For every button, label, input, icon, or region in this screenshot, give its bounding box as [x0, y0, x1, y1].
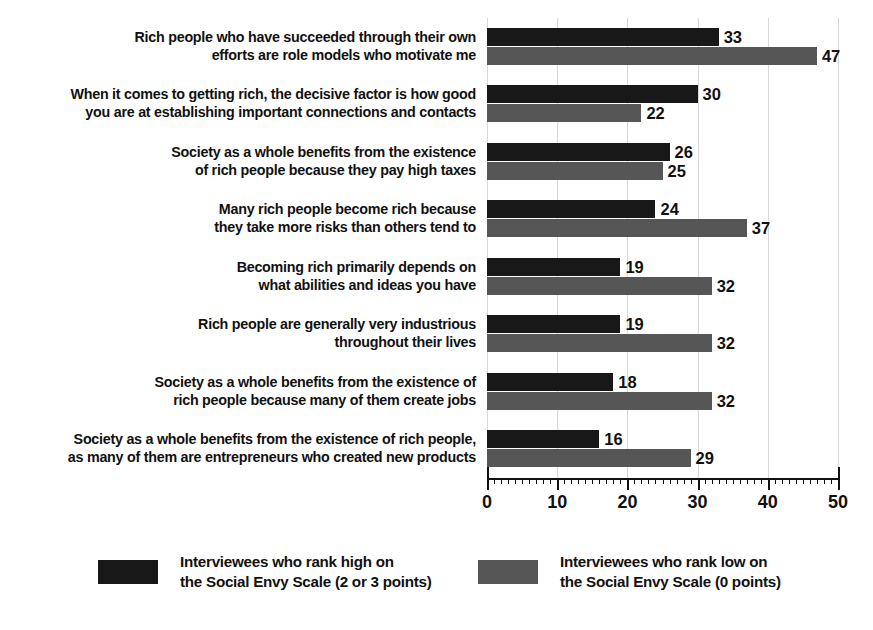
- chart-row: When it comes to getting rich, the decis…: [0, 76, 873, 134]
- x-tick-minor: [613, 478, 614, 484]
- bar-low-envy: [487, 392, 712, 410]
- x-tick-minor: [733, 478, 734, 484]
- bar-line: 16: [487, 430, 873, 448]
- bar-line: 18: [487, 373, 873, 391]
- chart-row: Society as a whole benefits from the exi…: [0, 421, 873, 479]
- x-tick-major: [838, 478, 840, 490]
- x-tick-minor: [529, 478, 530, 484]
- bar-line: 37: [487, 219, 873, 237]
- x-tick-minor: [691, 478, 692, 484]
- bar-group: 1832: [487, 372, 873, 412]
- bar-group: 1629: [487, 429, 873, 469]
- bar-value-label: 33: [719, 27, 742, 46]
- x-tick-minor: [740, 478, 741, 484]
- bar-group: 1932: [487, 314, 873, 354]
- x-axis-end-cap: [487, 467, 489, 478]
- x-tick-label: 20: [617, 492, 637, 513]
- bar-line: 47: [487, 47, 873, 65]
- x-axis: 01020304050: [487, 478, 838, 524]
- bar-low-envy: [487, 449, 691, 467]
- category-label: When it comes to getting rich, the decis…: [6, 86, 476, 122]
- x-tick-label: 40: [758, 492, 778, 513]
- bar-line: 30: [487, 85, 873, 103]
- bar-low-envy: [487, 47, 817, 65]
- bar-value-label: 19: [620, 257, 643, 276]
- bar-line: 33: [487, 28, 873, 46]
- x-tick-minor: [508, 478, 509, 484]
- bar-low-envy: [487, 162, 663, 180]
- x-tick-minor: [515, 478, 516, 484]
- bar-value-label: 22: [641, 104, 664, 123]
- legend-label-low-envy: Interviewees who rank low on the Social …: [560, 552, 781, 592]
- bar-value-label: 29: [691, 449, 714, 468]
- bar-chart: Rich people who have succeeded through t…: [0, 0, 873, 630]
- x-tick-label: 50: [828, 492, 848, 513]
- bar-value-label: 18: [613, 372, 636, 391]
- legend-entry-high-envy: Interviewees who rank high on the Social…: [98, 552, 432, 592]
- category-label: Society as a whole benefits from the exi…: [6, 144, 476, 180]
- bar-line: 32: [487, 392, 873, 410]
- x-tick-minor: [684, 478, 685, 484]
- x-tick-minor: [585, 478, 586, 484]
- bar-high-envy: [487, 315, 620, 333]
- bar-line: 32: [487, 277, 873, 295]
- x-tick-minor: [712, 478, 713, 484]
- bar-line: 19: [487, 258, 873, 276]
- x-tick-minor: [789, 478, 790, 484]
- bar-low-envy: [487, 219, 747, 237]
- legend-swatch-high-envy: [98, 560, 158, 584]
- bar-line: 22: [487, 104, 873, 122]
- bar-group: 3347: [487, 27, 873, 67]
- bar-group: 1932: [487, 257, 873, 297]
- bar-low-envy: [487, 104, 641, 122]
- x-tick-minor: [817, 478, 818, 484]
- bar-high-envy: [487, 430, 599, 448]
- bar-high-envy: [487, 258, 620, 276]
- x-tick-minor: [550, 478, 551, 484]
- x-tick-minor: [648, 478, 649, 484]
- x-tick-minor: [803, 478, 804, 484]
- x-tick-minor: [831, 478, 832, 484]
- chart-row: Society as a whole benefits from the exi…: [0, 363, 873, 421]
- x-tick-major: [557, 478, 559, 490]
- bar-high-envy: [487, 143, 670, 161]
- x-tick-major: [487, 478, 489, 490]
- chart-row: Society as a whole benefits from the exi…: [0, 133, 873, 191]
- legend-entry-low-envy: Interviewees who rank low on the Social …: [478, 552, 781, 592]
- chart-legend: Interviewees who rank high on the Social…: [0, 552, 873, 630]
- x-tick-minor: [543, 478, 544, 484]
- x-tick-minor: [663, 478, 664, 484]
- bar-value-label: 26: [670, 142, 693, 161]
- x-tick-minor: [719, 478, 720, 484]
- bar-low-envy: [487, 334, 712, 352]
- x-tick-minor: [592, 478, 593, 484]
- x-tick-minor: [677, 478, 678, 484]
- x-tick-minor: [747, 478, 748, 484]
- x-tick-minor: [494, 478, 495, 484]
- bar-value-label: 32: [712, 276, 735, 295]
- x-tick-minor: [726, 478, 727, 484]
- chart-plot-area: Rich people who have succeeded through t…: [0, 18, 873, 478]
- bar-group: 3022: [487, 84, 873, 124]
- chart-row: Rich people who have succeeded through t…: [0, 18, 873, 76]
- bar-high-envy: [487, 373, 613, 391]
- x-axis-end-cap: [838, 467, 840, 478]
- bar-line: 19: [487, 315, 873, 333]
- x-tick-minor: [641, 478, 642, 484]
- category-label: Rich people who have succeeded through t…: [6, 29, 476, 65]
- category-label: Many rich people become rich because the…: [6, 201, 476, 237]
- bar-line: 32: [487, 334, 873, 352]
- bar-line: 25: [487, 162, 873, 180]
- x-tick-minor: [599, 478, 600, 484]
- bar-value-label: 47: [817, 46, 840, 65]
- x-tick-major: [698, 478, 700, 490]
- x-tick-major: [627, 478, 629, 490]
- x-tick-minor: [796, 478, 797, 484]
- x-tick-minor: [705, 478, 706, 484]
- x-tick-minor: [620, 478, 621, 484]
- bar-high-envy: [487, 85, 698, 103]
- x-tick-minor: [536, 478, 537, 484]
- legend-swatch-low-envy: [478, 560, 538, 584]
- chart-rows: Rich people who have succeeded through t…: [0, 18, 873, 478]
- bar-group: 2437: [487, 199, 873, 239]
